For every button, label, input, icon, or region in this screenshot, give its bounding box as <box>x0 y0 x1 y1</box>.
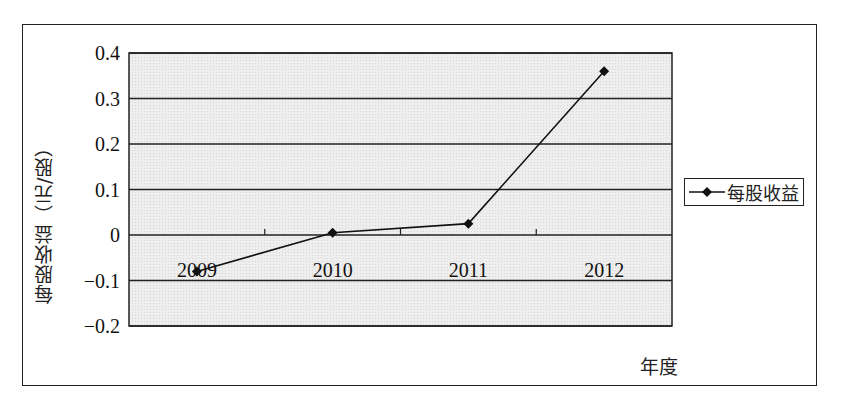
y-tick-label: 0.4 <box>95 42 120 64</box>
y-axis-title: 每股收益（元/股） <box>30 120 60 320</box>
y-tick-label: −0.1 <box>84 270 120 292</box>
legend: 每股收益 <box>684 178 804 206</box>
x-tick-label: 2010 <box>313 259 353 281</box>
y-tick-label: 0 <box>110 224 120 246</box>
legend-diamond-line-icon <box>689 185 725 199</box>
y-tick-label: 0.2 <box>95 133 120 155</box>
x-axis-title: 年度 <box>640 352 678 379</box>
x-tick-label: 2011 <box>449 259 488 281</box>
y-tick-label: 0.3 <box>95 88 120 110</box>
legend-label: 每股收益 <box>727 179 799 205</box>
y-tick-label: −0.2 <box>84 315 120 337</box>
x-tick-label: 2012 <box>584 259 624 281</box>
y-axis-ticks: 0.40.30.20.10−0.1−0.2 <box>84 42 120 337</box>
y-tick-label: 0.1 <box>95 179 120 201</box>
